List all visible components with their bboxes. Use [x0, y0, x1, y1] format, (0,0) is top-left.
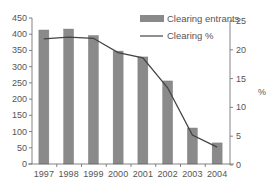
x-tick-label-2001: 2001 [133, 169, 153, 179]
y2-axis-title: % [258, 87, 266, 97]
x-tick-label-2002: 2002 [158, 169, 178, 179]
y-tick-label-300: 300 [12, 62, 27, 72]
y-tick-label-0: 0 [22, 159, 27, 169]
x-tick-label-1998: 1998 [59, 169, 79, 179]
legend-label-clearing-entrants: Clearing entrants [167, 13, 240, 24]
x-tick-label-2003: 2003 [182, 169, 202, 179]
y-tick-label-400: 400 [12, 29, 27, 39]
y2-tick-label-0: 0 [236, 160, 241, 170]
bar-1999 [88, 36, 98, 164]
y-tick-label-50: 50 [17, 143, 27, 153]
bar-2000 [113, 51, 123, 164]
y2-tick-label-10: 10 [236, 102, 246, 112]
y-tick-label-150: 150 [12, 110, 27, 120]
y-tick-label-450: 450 [12, 13, 27, 23]
bar-2001 [138, 57, 148, 164]
y-tick-label-100: 100 [12, 127, 27, 137]
legend-swatch-clearing-entrants [140, 15, 164, 22]
bars-group [39, 29, 222, 164]
y2-tick-label-20: 20 [236, 45, 246, 55]
legend-label-clearing-pct: Clearing % [167, 30, 214, 41]
y-tick-label-350: 350 [12, 45, 27, 55]
y2-tick-label-5: 5 [236, 131, 241, 141]
x-tick-label-2004: 2004 [207, 169, 227, 179]
bar-1997 [39, 30, 49, 164]
legend: Clearing entrants Clearing % [140, 13, 240, 41]
bar-1998 [64, 29, 74, 164]
y-tick-label-250: 250 [12, 78, 27, 88]
x-tick-label-1997: 1997 [34, 169, 54, 179]
x-tick-label-2000: 2000 [108, 169, 128, 179]
y-tick-label-200: 200 [12, 94, 27, 104]
bar-2003 [187, 128, 197, 164]
chart: 0501001502002503003504004501997199819992… [0, 0, 274, 186]
y2-tick-label-15: 15 [236, 74, 246, 84]
x-tick-label-1999: 1999 [83, 169, 103, 179]
